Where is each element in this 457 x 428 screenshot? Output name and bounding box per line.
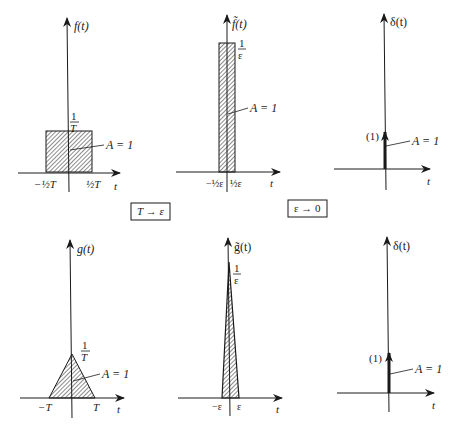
f-area: A = 1	[105, 138, 133, 152]
g-xlabel: t	[117, 403, 121, 415]
g-area: A = 1	[101, 367, 129, 381]
f-tick-left: −½T	[34, 178, 57, 190]
g-height-den: T	[81, 351, 88, 363]
f-height-den: T	[70, 122, 77, 134]
panel-f-tilde: f̃(t) 1 ε A = 1 −½ε ½ε t	[176, 15, 280, 192]
f-tilde-tick-left: −½ε	[206, 178, 223, 189]
delta-top-weight: (1)	[366, 130, 379, 143]
panel-delta-top: δ(t) (1) A = 1 t	[334, 14, 439, 190]
g-height-num: 1	[82, 339, 88, 351]
g-ylabel: g(t)	[77, 242, 94, 256]
g-tilde-tick-left: −ε	[212, 401, 222, 412]
f-tilde-height-den: ε	[238, 49, 243, 61]
transition-box-eps-to-zero: ε → 0	[288, 200, 327, 217]
delta-bottom-xlabel: t	[432, 399, 436, 411]
area-leader	[390, 369, 413, 374]
f-tilde-xlabel: t	[270, 177, 274, 189]
f-tilde-ylabel: f̃(t)	[232, 16, 247, 31]
delta-bottom-area: A = 1	[414, 362, 442, 376]
g-tick-right: T	[93, 401, 100, 413]
g-tilde-xlabel: t	[276, 403, 280, 415]
delta-bottom-ylabel: δ(t)	[393, 239, 410, 253]
transition-first-label: T → ε	[137, 205, 164, 217]
f-tilde-height-num: 1	[239, 37, 245, 49]
f-ylabel: f(t)	[74, 19, 89, 33]
g-tilde-height-num: 1	[234, 262, 240, 274]
delta-top-area: A = 1	[411, 134, 439, 148]
panel-g-tilde: g̃(t) 1 ε −ε ε t	[178, 238, 282, 416]
g-tilde-tick-right: ε	[237, 401, 241, 412]
g-tilde-height-den: ε	[234, 274, 239, 286]
area-leader	[386, 141, 410, 146]
delta-top-xlabel: t	[427, 175, 431, 187]
transition-box-T-to-eps: T → ε	[131, 203, 170, 220]
g-tick-left: −T	[38, 401, 52, 413]
impulse-limit-diagram: f(t) 1 T A = 1 −½T ½T t f̃(t) 1 ε A = 1 …	[0, 0, 457, 428]
panel-g: g(t) 1 T A = 1 −T T t	[20, 240, 129, 418]
f-height-num: 1	[71, 110, 77, 122]
delta-top-ylabel: δ(t)	[390, 15, 407, 29]
panel-delta-bottom: δ(t) (1) A = 1 t	[337, 237, 442, 412]
f-xlabel: t	[114, 180, 118, 192]
transition-second-label: ε → 0	[294, 202, 321, 214]
delta-bottom-weight: (1)	[369, 352, 382, 365]
f-tick-right: ½T	[86, 178, 101, 190]
f-tilde-tick-right: ½ε	[230, 178, 242, 189]
g-tilde-ylabel: g̃(t)	[234, 240, 251, 254]
f-tilde-area: A = 1	[249, 101, 277, 115]
panel-f: f(t) 1 T A = 1 −½T ½T t	[18, 18, 133, 192]
